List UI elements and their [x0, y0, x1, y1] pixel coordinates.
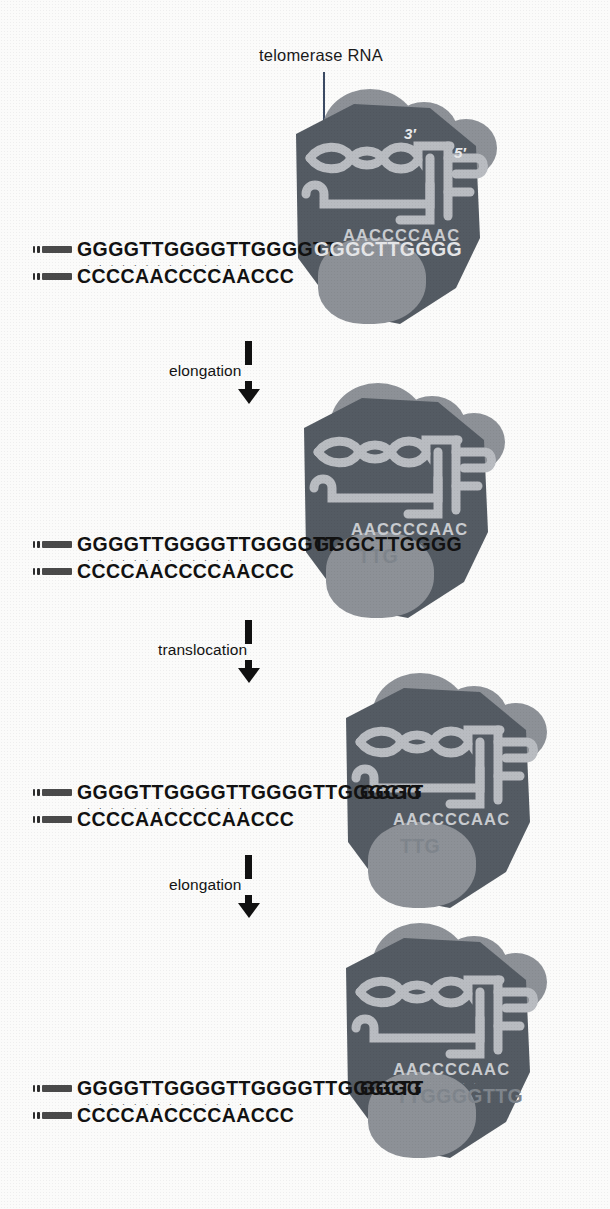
telomerase-diagram: telomerase RNA 3′ 5′ [0, 0, 610, 1209]
telomerase-rna-ribbon [280, 88, 510, 338]
step-arrow-head-2 [238, 668, 260, 683]
dna-top-strand-2: GGGGTTGGGGTTGGGGTT [33, 535, 338, 555]
step-label-elongation-2: elongation [169, 876, 242, 894]
dna-top-strand-1: GGGGTTGGGGTTGGGGTT [33, 240, 338, 260]
strand-break-mark [33, 816, 72, 823]
top-strand-under-enzyme-4: GGGG [360, 1079, 422, 1099]
strand-break-mark [33, 246, 72, 253]
step-arrow-stem-1 [245, 341, 252, 365]
telomerase-rna-ribbon [330, 922, 570, 1172]
top-strand-sequence-2: GGGGTTGGGGTTGGGGTT [77, 535, 338, 555]
rna-template-sequence-3: AACCCCAAC [393, 810, 510, 829]
telomerase-rna-callout-label: telomerase RNA [259, 46, 383, 65]
bottom-strand-sequence-3: CCCCAACCCCAACCC [77, 810, 294, 830]
dna-bottom-strand-3: CCCCAACCCCAACCC [33, 810, 294, 830]
telomerase-complex-1: 3′ 5′ AACCCCAAC · · · · · · · · [280, 88, 510, 338]
bottom-strand-sequence-2: CCCCAACCCCAACCC [77, 562, 294, 582]
step-arrow-stem-3 [245, 855, 252, 879]
strand-break-mark [33, 1112, 72, 1119]
strand-break-mark [33, 789, 72, 796]
rna-5prime-label: 5′ [454, 144, 466, 161]
step-label-translocation: translocation [158, 641, 247, 659]
bottom-strand-sequence-4: CCCCAACCCCAACCC [77, 1106, 294, 1126]
strand-break-mark [33, 1085, 72, 1092]
dna-bottom-strand-2: CCCCAACCCCAACCC [33, 562, 294, 582]
rna-3prime-label: 3′ [404, 125, 416, 142]
dna-bottom-strand-1: CCCCAACCCCAACCC [33, 267, 294, 287]
bottom-strand-sequence-1: CCCCAACCCCAACCC [77, 267, 294, 287]
top-strand-hidden-3: TTG [400, 835, 440, 858]
step-arrow-head-3 [238, 903, 260, 918]
dna-bottom-strand-4: CCCCAACCCCAACCC [33, 1106, 294, 1126]
top-strand-under-enzyme-2: GGGCTTGGGG [314, 535, 462, 555]
step-label-elongation-1: elongation [169, 362, 242, 380]
top-strand-under-enzyme-3: GGGG [360, 783, 422, 803]
top-strand-under-enzyme-1: GGGCTTGGGG [314, 240, 462, 260]
strand-break-mark [33, 273, 72, 280]
strand-break-mark [33, 568, 72, 575]
strand-break-mark [33, 541, 72, 548]
telomerase-complex-2: AACCCCAAC · · · · · · · · TTG [288, 382, 518, 632]
top-strand-sequence-1: GGGGTTGGGGTTGGGGTT [77, 240, 338, 260]
telomerase-complex-4: AACCCCAAC · · · · · · · · TTGGGGTTG [330, 922, 570, 1172]
telomerase-rna-ribbon [288, 382, 518, 632]
step-arrow-head-1 [238, 389, 260, 404]
